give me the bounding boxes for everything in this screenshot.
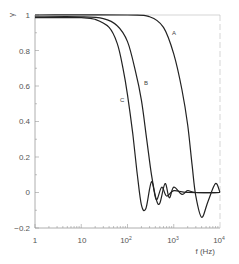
y-tick-label: 0.4	[19, 117, 31, 126]
x-tick-label: 1	[33, 236, 38, 245]
curve-b	[35, 17, 220, 205]
plot-frame	[35, 15, 220, 228]
frequency-response-chart: 1 0.8 0.6 0.4 0.2 0 −0.2 γ 1 10 102 103 …	[0, 0, 239, 264]
x-tick-label: 103	[167, 235, 179, 245]
curve-label-b: B	[144, 80, 148, 86]
y-tick-label: −0.2	[14, 224, 30, 233]
x-tick-labels: 1 10 102 103 104	[33, 235, 225, 245]
y-tick-label: 0.2	[19, 153, 31, 162]
x-tick-label: 104	[213, 235, 225, 245]
x-axis-title: f (Hz)	[195, 247, 215, 256]
x-ticks	[35, 224, 218, 228]
x-tick-label: 10	[78, 236, 87, 245]
curve-label-c: C	[120, 97, 125, 103]
y-tick-label: 0.6	[19, 82, 31, 91]
y-tick-labels: 1 0.8 0.6 0.4 0.2 0 −0.2	[14, 11, 30, 233]
x-tick-label: 102	[120, 235, 132, 245]
curve-c	[35, 18, 220, 211]
y-axis-title: γ	[7, 13, 16, 17]
curve-a	[35, 15, 220, 217]
y-ticks	[35, 15, 39, 228]
y-tick-label: 0	[26, 188, 31, 197]
curve-label-a: A	[172, 30, 176, 36]
y-tick-label: 0.8	[19, 47, 31, 56]
y-tick-label: 1	[26, 11, 31, 20]
